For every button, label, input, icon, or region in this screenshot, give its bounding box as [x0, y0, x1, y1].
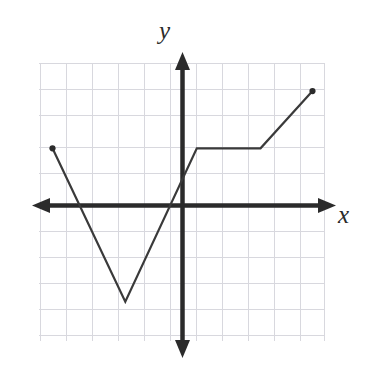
arrow-down-icon: [175, 340, 190, 358]
x-axis-label: x: [338, 202, 349, 227]
y-axis-label: y: [159, 18, 170, 43]
graph-figure: y x: [0, 0, 369, 384]
arrow-right-icon: [318, 198, 336, 213]
coordinate-plane-svg: [0, 0, 369, 384]
arrow-up-icon: [175, 52, 190, 70]
left-endpoint-dot: [49, 145, 55, 151]
right-endpoint-dot: [309, 88, 315, 94]
